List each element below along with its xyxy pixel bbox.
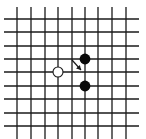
go-board-diagram xyxy=(0,0,146,139)
white-stone xyxy=(53,67,63,77)
black-stone xyxy=(80,81,91,92)
board-background xyxy=(0,0,146,139)
black-stone xyxy=(80,54,91,65)
